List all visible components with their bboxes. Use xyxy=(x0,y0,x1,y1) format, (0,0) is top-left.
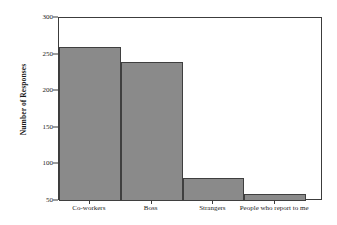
bar xyxy=(59,47,121,201)
x-category-label: Co-workers xyxy=(72,204,105,212)
x-category-label: Boss xyxy=(144,204,158,212)
y-tick-label: 200 xyxy=(13,86,53,94)
y-tick-label: 150 xyxy=(13,123,53,131)
x-category-label: People who report to me xyxy=(240,204,309,212)
y-tick-label: 50 xyxy=(13,196,53,204)
bar-chart: Number of Responses 50100150200250300 Co… xyxy=(0,0,337,225)
plot-area xyxy=(58,17,322,200)
bar xyxy=(121,62,183,201)
x-category-label: Strangers xyxy=(199,204,225,212)
y-tick-label: 100 xyxy=(13,159,53,167)
bar xyxy=(244,194,306,201)
y-tick-label: 250 xyxy=(13,50,53,58)
bar xyxy=(183,178,245,201)
y-tick-label: 300 xyxy=(13,13,53,21)
